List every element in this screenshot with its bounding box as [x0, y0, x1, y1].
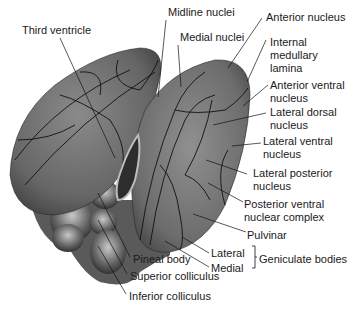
- label-posterior-ventral-1: Posterior ventral: [244, 198, 324, 210]
- label-lateral-ventral-1: Lateral ventral: [263, 135, 333, 147]
- label-medial-nuclei: Medial nuclei: [180, 31, 244, 43]
- label-lateral-geniculate: Lateral: [211, 247, 245, 259]
- label-lateral-dorsal-1: Lateral dorsal: [270, 106, 337, 118]
- label-lateral-posterior-2: nucleus: [253, 180, 291, 192]
- label-pulvinar: Pulvinar: [247, 229, 287, 241]
- label-internal-medullary-lamina-2: medullary: [270, 49, 318, 61]
- label-geniculate-bodies: Geniculate bodies: [259, 253, 347, 265]
- label-internal-medullary-lamina-1: Internal: [270, 36, 307, 48]
- label-pineal-body: Pineal body: [133, 253, 191, 265]
- label-superior-colliculus: Superior colliculus: [130, 270, 219, 282]
- label-lateral-posterior-1: Lateral posterior: [253, 167, 333, 179]
- label-internal-medullary-lamina-3: lamina: [270, 62, 302, 74]
- label-lateral-dorsal-2: nucleus: [270, 119, 308, 131]
- label-lateral-ventral-2: nucleus: [263, 148, 301, 160]
- label-posterior-ventral-2: nuclear complex: [244, 211, 324, 223]
- label-third-ventricle: Third ventricle: [22, 24, 91, 36]
- geniculate-bracket: [252, 246, 257, 268]
- label-midline-nuclei: Midline nuclei: [168, 6, 235, 18]
- label-anterior-ventral-1: Anterior ventral: [270, 79, 345, 91]
- label-anterior-nucleus: Anterior nucleus: [266, 11, 346, 23]
- label-anterior-ventral-2: nucleus: [270, 92, 308, 104]
- label-inferior-colliculus: Inferior colliculus: [129, 290, 211, 302]
